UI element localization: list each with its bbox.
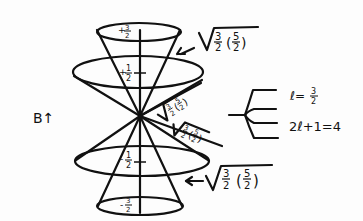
multiplicity-label: 2ℓ+1=4 (289, 119, 341, 134)
m-label-minus-three-half: - 3 2 (120, 197, 132, 214)
l-value-label: ℓ= 3 2 (289, 87, 318, 106)
svg-text:2: 2 (125, 32, 129, 40)
cone-lower-ellipse (75, 146, 209, 176)
level-splitting-diagram (229, 90, 278, 138)
svg-text:2: 2 (223, 180, 229, 191)
cone-upper-ellipse (73, 56, 203, 88)
m-label-plus-three-half: + 3 2 (118, 24, 131, 40)
svg-text:1: 1 (126, 151, 131, 160)
svg-text:2: 2 (215, 42, 221, 53)
svg-text:-: - (120, 200, 123, 210)
svg-text:): ) (241, 35, 246, 51)
svg-text:2: 2 (126, 161, 131, 170)
diagram-canvas: + 3 2 + 1 2 - 1 2 - 3 2 3 2 ( 5 2 (0, 0, 363, 221)
svg-text:): ) (253, 172, 259, 190)
svg-text:ℓ=: ℓ= (289, 89, 305, 103)
field-label-b: B↑ (33, 110, 54, 126)
svg-text:2: 2 (126, 206, 130, 214)
svg-text:2: 2 (180, 131, 187, 140)
svg-text:-: - (120, 154, 123, 164)
m-label-minus-one-half: - 1 2 (120, 151, 146, 170)
svg-text:2: 2 (233, 42, 239, 53)
angular-momentum-diagram: + 3 2 + 1 2 - 1 2 - 3 2 3 2 ( 5 2 (0, 0, 363, 221)
svg-text:3: 3 (223, 168, 229, 179)
svg-text:(: ( (226, 35, 231, 51)
svg-text:3: 3 (311, 87, 316, 96)
svg-text:3: 3 (126, 197, 130, 205)
magnitude-label-diag-lower: 3 2 ( 5 2 ) (169, 119, 209, 148)
svg-text:5: 5 (244, 168, 250, 179)
svg-text:(: ( (236, 172, 242, 190)
svg-text:1: 1 (126, 64, 131, 73)
svg-text:2: 2 (126, 74, 131, 83)
magnitude-label-top: 3 2 ( 5 2 ) (177, 27, 258, 54)
svg-text:3: 3 (215, 31, 221, 42)
svg-text:2: 2 (244, 180, 250, 191)
svg-text:5: 5 (233, 31, 239, 42)
svg-text:2: 2 (311, 97, 316, 106)
